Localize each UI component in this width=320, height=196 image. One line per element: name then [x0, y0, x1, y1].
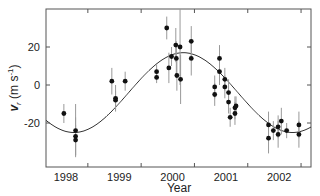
data-point	[279, 119, 284, 124]
data-point	[217, 69, 222, 74]
data-point	[234, 104, 239, 109]
fit-curve	[46, 53, 311, 133]
data-point	[109, 79, 114, 84]
error-bars	[64, 9, 299, 157]
fit-line	[46, 53, 311, 133]
x-axis-title: Year	[167, 181, 191, 195]
data-point	[169, 54, 174, 59]
plot-border	[46, 9, 311, 167]
data-point	[178, 77, 183, 82]
data-point	[222, 77, 227, 82]
data-point	[154, 69, 159, 74]
data-point	[178, 45, 183, 50]
x-tick-label: 1999	[107, 171, 131, 183]
data-point	[174, 73, 179, 78]
data-point	[113, 98, 118, 103]
x-tick-label: 2001	[214, 171, 238, 183]
data-point	[266, 136, 271, 141]
radial-velocity-chart: 19981999200020012002 -20020 Year vr (m s…	[0, 0, 320, 196]
data-point	[73, 138, 78, 143]
data-point	[212, 85, 217, 90]
data-point	[276, 124, 281, 129]
x-tick-label: 1998	[54, 171, 78, 183]
data-point	[233, 111, 238, 116]
data-point	[217, 56, 222, 61]
data-point	[61, 111, 66, 116]
data-point	[284, 128, 289, 133]
data-point	[226, 90, 231, 95]
data-point	[123, 79, 128, 84]
plot-frame	[46, 9, 311, 167]
data-point	[164, 26, 169, 31]
data-point	[228, 115, 233, 120]
y-axis-ticks: -20020	[24, 41, 311, 129]
data-point	[173, 43, 178, 48]
x-axis-ticks: 19981999200020012002	[54, 9, 301, 183]
y-tick-label: 20	[28, 41, 40, 53]
data-point	[266, 123, 271, 128]
y-tick-label: 0	[34, 79, 40, 91]
data-point	[271, 128, 276, 133]
data-point	[276, 132, 281, 137]
y-tick-label: -20	[24, 117, 40, 129]
data-point	[297, 132, 302, 137]
data-point	[222, 85, 227, 90]
data-point	[189, 56, 194, 61]
data-points	[61, 26, 301, 143]
data-point	[174, 56, 179, 61]
data-point	[212, 92, 217, 97]
x-tick-label: 2002	[267, 171, 291, 183]
data-point	[73, 128, 78, 133]
y-axis-title: vr (m s-1)	[6, 64, 23, 111]
data-point	[166, 66, 171, 71]
data-point	[226, 100, 231, 105]
data-point	[297, 123, 302, 128]
data-point	[189, 39, 194, 44]
data-point	[154, 75, 159, 80]
